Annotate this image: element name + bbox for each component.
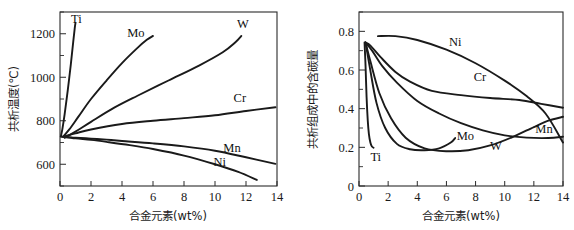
curve-label-ti: Ti [370,150,381,164]
curve-label-mn: Mn [223,141,241,155]
curve-label-w: W [237,17,249,31]
x-tick-label: 8 [181,190,187,204]
curve-label-ti: Ti [71,12,82,26]
chart-panel-left: 0246810121460080010001200 TiMoWCrMnNi 合金… [0,0,287,230]
x-tick-label: 4 [119,190,126,204]
x-tick-label: 10 [498,190,511,204]
curve-cr [366,43,563,108]
x-tick-label: 0 [57,190,63,204]
y-tick-label: 1000 [30,71,55,85]
figure-container: 0246810121460080010001200 TiMoWCrMnNi 合金… [0,0,574,230]
y-tick-label: 0.4 [338,102,354,116]
curve-label-w: W [490,139,502,153]
curve-w [65,36,242,138]
x-tick-label: 14 [557,190,570,204]
curve-label-mo: Mo [127,26,144,40]
curve-ti [61,23,76,137]
x-tick-label: 12 [240,190,253,204]
left-y-axis-title: 共析温度(℃) [7,66,21,132]
eutectoid-carbon-content-chart: 0246810121400.20.40.60.8 NiCrMnWMoTi 合金元… [287,0,574,230]
x-tick-label: 8 [472,190,478,204]
curve-label-mo: Mo [457,129,474,143]
chart-panel-right: 0246810121400.20.40.60.8 NiCrMnWMoTi 合金元… [287,0,574,230]
y-tick-label: 800 [36,114,55,128]
x-tick-label: 12 [528,190,541,204]
x-tick-label: 4 [414,190,421,204]
y-tick-label: 1200 [30,27,55,41]
x-tick-label: 6 [443,190,449,204]
x-tick-label: 6 [150,190,156,204]
curve-label-ni: Ni [449,35,462,49]
y-tick-label: 0.2 [338,141,354,155]
curve-label-mn: Mn [535,122,553,136]
curve-label-cr: Cr [234,91,247,105]
curve-cr [63,107,275,136]
eutectoid-temperature-chart: 0246810121460080010001200 TiMoWCrMnNi 合金… [0,0,287,230]
y-tick-label: 0.8 [338,25,354,39]
right-y-axis-title: 共析组成中的含碳量 [306,50,320,149]
x-tick-label: 2 [385,190,391,204]
right-x-axis-title: 合金元素(wt%) [422,209,500,223]
x-tick-label: 0 [356,190,362,204]
curve-label-ni: Ni [213,155,226,169]
x-tick-label: 10 [209,190,222,204]
left-tick-labels: 0246810121460080010001200 [30,27,284,204]
x-tick-label: 14 [271,190,284,204]
x-tick-label: 2 [88,190,94,204]
y-tick-label: 600 [36,158,55,172]
y-tick-label: 0.6 [338,64,354,78]
y-tick-label: 0 [348,180,354,194]
curve-label-cr: Cr [474,70,487,84]
left-x-axis-title: 合金元素(wt%) [129,209,207,223]
